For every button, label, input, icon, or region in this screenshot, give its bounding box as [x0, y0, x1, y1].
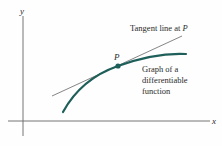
- y-axis-label: y: [19, 6, 24, 16]
- tangent-line-diagram: y x P Tangent line at P Graph of a diffe…: [0, 0, 222, 146]
- point-p: [115, 63, 120, 68]
- tangent-label-text: Tangent line at: [130, 23, 183, 33]
- curve-label-line-1: Graph of a: [142, 64, 179, 74]
- x-axis-label: x: [211, 116, 216, 126]
- curve-label-line-2: differentiable: [142, 75, 188, 85]
- point-p-label: P: [113, 52, 120, 62]
- curve-label-line-3: function: [142, 86, 171, 96]
- tangent-label: Tangent line at P: [130, 23, 188, 33]
- tangent-label-point: P: [182, 23, 188, 33]
